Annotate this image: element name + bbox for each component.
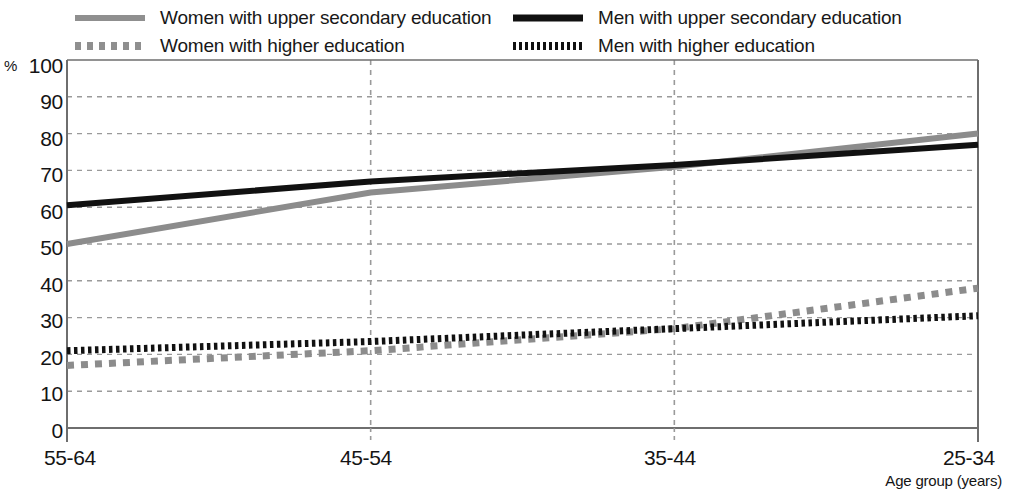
y-axis-labels: % 100 90 80 70 60 50 40 30 20 10 0 — [0, 0, 63, 491]
series-line-men_higher — [67, 316, 978, 351]
y-tick-label: 70 — [7, 164, 63, 185]
series-line-men_upper_secondary — [67, 145, 978, 206]
axis-tickmarks — [67, 428, 978, 442]
chart-canvas — [0, 0, 1010, 491]
chart-root: Women with upper secondary education Men… — [0, 0, 1010, 491]
gridlines — [67, 60, 978, 428]
x-tick-label-25-34: 25-34 — [943, 447, 995, 468]
y-tick-label: 90 — [7, 91, 63, 112]
y-tick-label: 10 — [7, 383, 63, 404]
y-tick-label: 0 — [7, 420, 63, 441]
plot-area — [0, 0, 1010, 491]
y-tick-label: 100 — [7, 55, 63, 76]
x-tick-label-35-44: 35-44 — [644, 447, 696, 468]
series-lines — [67, 134, 978, 366]
x-tick-label-45-54: 45-54 — [340, 447, 392, 468]
y-tick-label: 60 — [7, 201, 63, 222]
y-tick-label: 80 — [7, 128, 63, 149]
y-tick-label: 30 — [7, 310, 63, 331]
x-tick-label-55-64: 55-64 — [44, 447, 96, 468]
y-tick-label: 50 — [7, 237, 63, 258]
y-tick-label: 20 — [7, 347, 63, 368]
x-axis-title: Age group (years) — [885, 473, 1002, 488]
series-line-women_upper_secondary — [67, 134, 978, 244]
y-tick-label: 40 — [7, 274, 63, 295]
